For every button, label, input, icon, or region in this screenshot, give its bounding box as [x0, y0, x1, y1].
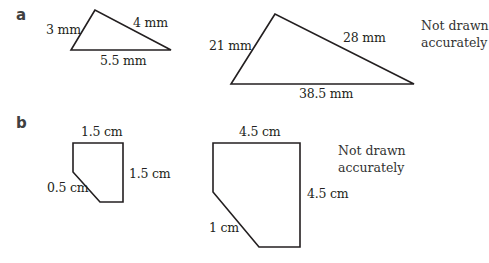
small-pentagon-right-side: 1.5 cm [129, 168, 171, 181]
small-triangle-left-side: 3 mm [46, 24, 81, 37]
large-triangle-right-side: 28 mm [343, 32, 386, 45]
not-drawn-accurately-note-a: Not drawn accurately [421, 17, 489, 51]
small-pentagon-top-side: 1.5 cm [81, 126, 123, 139]
small-triangle-right-side: 4 mm [133, 17, 168, 30]
large-pentagon-top-side: 4.5 cm [239, 126, 281, 139]
note-line-2: accurately [338, 159, 406, 176]
note-line-1: Not drawn [421, 17, 489, 34]
large-pentagon-diagonal-side: 1 cm [209, 222, 239, 235]
note-line-2: accurately [421, 34, 489, 51]
part-b-label: b [16, 114, 27, 132]
small-pentagon-diagonal-side: 0.5 cm [47, 182, 89, 195]
large-triangle-base: 38.5 mm [299, 88, 353, 101]
small-triangle-base: 5.5 mm [100, 55, 146, 68]
large-pentagon-right-side: 4.5 cm [307, 188, 349, 201]
note-line-1: Not drawn [338, 142, 406, 159]
large-triangle [231, 14, 414, 84]
not-drawn-accurately-note-b: Not drawn accurately [338, 142, 406, 176]
part-a-label: a [16, 6, 26, 24]
large-triangle-left-side: 21 mm [209, 40, 252, 53]
